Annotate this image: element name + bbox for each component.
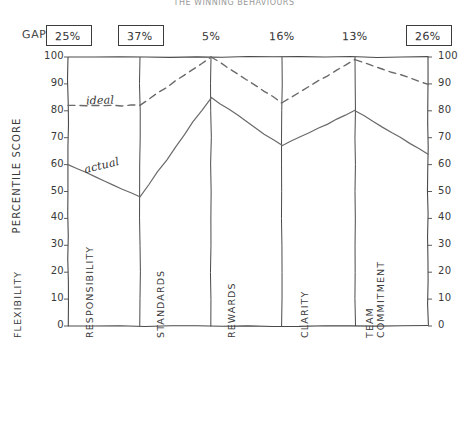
y-tick-label-left: 20 bbox=[24, 265, 64, 276]
y-tick-label-right: 30 bbox=[438, 238, 468, 249]
chart-canvas bbox=[0, 0, 468, 433]
y-tick-label-left: 10 bbox=[24, 292, 64, 303]
x-category-label: FLEXIBILITY bbox=[12, 218, 23, 338]
category-gridline bbox=[139, 57, 140, 326]
gap-cell: 37% bbox=[112, 24, 168, 48]
series-segment-actual bbox=[282, 110, 355, 146]
y-tick-label-left: 60 bbox=[24, 158, 64, 169]
series-segment-actual bbox=[140, 98, 211, 197]
y-tick-label-left: 80 bbox=[24, 104, 64, 115]
y-tick-label-right: 0 bbox=[438, 319, 468, 330]
x-category-label: STANDARDS bbox=[155, 218, 166, 338]
series-segment-ideal bbox=[355, 60, 428, 85]
series-segment-ideal bbox=[211, 57, 282, 103]
y-tick-label-left: 90 bbox=[24, 77, 64, 88]
chart-root: THE WINNING BEHAVIOURS GAP 25%37%5%16%13… bbox=[0, 0, 468, 433]
plot-frame-top bbox=[68, 57, 429, 58]
y-tick-label-right: 20 bbox=[438, 265, 468, 276]
plot-area bbox=[0, 0, 468, 433]
gap-value: 13% bbox=[342, 29, 368, 42]
y-tick-label-left: 70 bbox=[24, 131, 64, 142]
category-gridline bbox=[281, 57, 282, 326]
y-tick-label-left: 30 bbox=[24, 238, 64, 249]
gap-cell: 25% bbox=[40, 24, 96, 48]
series-segment-actual bbox=[355, 111, 428, 155]
gap-value: 37% bbox=[127, 29, 153, 42]
y-tick-label-right: 50 bbox=[438, 185, 468, 196]
y-tick-label-right: 90 bbox=[438, 77, 468, 88]
y-tick-label-right: 100 bbox=[438, 50, 468, 61]
y-tick-label-right: 60 bbox=[438, 158, 468, 169]
gap-cell: 26% bbox=[400, 24, 456, 48]
y-tick-label-right: 80 bbox=[438, 104, 468, 115]
series-segment-ideal bbox=[140, 57, 211, 106]
y-tick-label-right: 40 bbox=[438, 211, 468, 222]
y-tick-label-right: 70 bbox=[438, 131, 468, 142]
x-category-label: RESPONSIBILITY bbox=[84, 218, 95, 338]
x-category-label: TEAMCOMMITMENT bbox=[364, 218, 386, 338]
x-category-label: CLARITY bbox=[299, 218, 310, 338]
y-tick-label-left: 100 bbox=[24, 50, 64, 61]
category-gridline bbox=[355, 57, 356, 326]
gap-value: 25% bbox=[55, 29, 81, 42]
gap-value: 26% bbox=[415, 29, 441, 42]
x-category-label: REWARDS bbox=[226, 218, 237, 338]
gap-value: 5% bbox=[202, 29, 220, 42]
gap-value: 16% bbox=[269, 29, 295, 42]
y-tick-label-right: 10 bbox=[438, 292, 468, 303]
series-segment-actual bbox=[211, 97, 282, 145]
y-tick-label-left: 50 bbox=[24, 185, 64, 196]
y-tick-label-left: 0 bbox=[24, 319, 64, 330]
y-tick-label-left: 40 bbox=[24, 211, 64, 222]
series-segment-ideal bbox=[282, 59, 355, 102]
series-label-ideal: ideal bbox=[86, 94, 115, 108]
